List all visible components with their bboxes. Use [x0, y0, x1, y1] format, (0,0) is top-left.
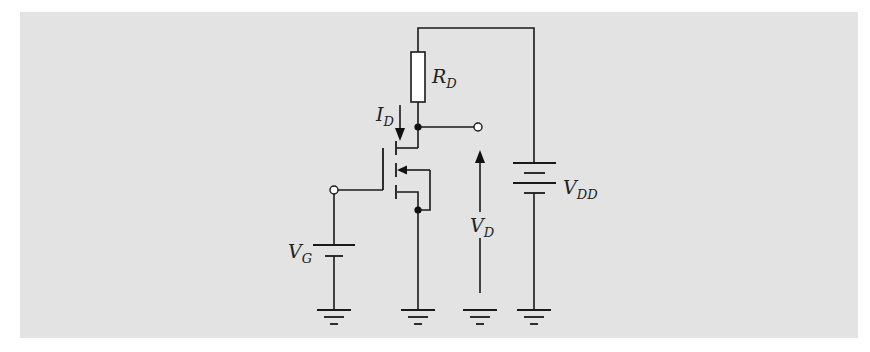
battery-vdd — [513, 163, 556, 310]
ground-icon — [401, 310, 435, 324]
gate-wire — [334, 190, 383, 245]
gate-terminal — [330, 186, 338, 194]
drain-node — [414, 123, 421, 130]
id-current-arrow — [395, 105, 405, 141]
output-terminal — [474, 123, 482, 131]
rd-label: RD — [431, 65, 457, 91]
resistor-rd — [411, 52, 425, 102]
nmos-transistor — [383, 141, 430, 310]
ground-icon — [463, 310, 497, 324]
source-node — [414, 206, 421, 213]
id-label: ID — [375, 103, 395, 129]
battery-vg — [313, 245, 355, 310]
drain-wire — [397, 102, 474, 148]
supply-wire — [418, 28, 534, 163]
vg-label: VG — [288, 240, 312, 266]
ground-icon — [517, 310, 551, 324]
circuit-schematic: RD ID VG — [0, 0, 870, 352]
vd-label: VD — [470, 214, 495, 240]
vdd-label: VDD — [563, 176, 598, 202]
ground-icon — [317, 310, 351, 324]
